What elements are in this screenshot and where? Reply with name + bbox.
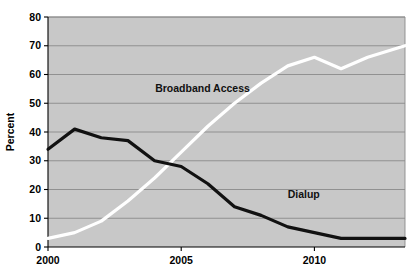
line-chart: 01020304050607080 200020052010 Broadband… xyxy=(0,0,414,276)
y-tick-label-70: 70 xyxy=(29,39,41,51)
x-tick-label-2010: 2010 xyxy=(303,254,327,266)
y-tick-label-10: 10 xyxy=(29,212,41,224)
y-tick-label-40: 40 xyxy=(29,126,41,138)
y-tick-label-50: 50 xyxy=(29,97,41,109)
y-tick-label-80: 80 xyxy=(29,11,41,23)
dialup-annotation: Dialup xyxy=(288,188,320,200)
broadband-access-annotation: Broadband Access xyxy=(155,82,250,94)
chart-figure: 01020304050607080 200020052010 Broadband… xyxy=(0,0,414,276)
y-tick-label-30: 30 xyxy=(29,154,41,166)
y-tick-label-60: 60 xyxy=(29,68,41,80)
y-axis-title: Percent xyxy=(4,112,16,151)
x-tick-label-2005: 2005 xyxy=(170,254,194,266)
x-tick-label-2000: 2000 xyxy=(36,254,60,266)
y-tick-label-20: 20 xyxy=(29,183,41,195)
y-tick-label-0: 0 xyxy=(35,241,41,253)
